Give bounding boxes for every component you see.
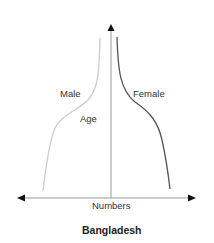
female-label: Female [133,88,165,99]
female-curve [117,37,170,189]
vertical-axis-arrowhead-icon [108,24,115,31]
horizontal-axis-left-arrowhead-icon [17,195,25,202]
y-axis-label: Age [80,113,97,124]
horizontal-axis-right-arrowhead-icon [188,195,196,202]
male-label: Male [60,88,81,99]
x-axis-label: Numbers [92,200,131,211]
diagram-title: Bangladesh [82,224,142,236]
